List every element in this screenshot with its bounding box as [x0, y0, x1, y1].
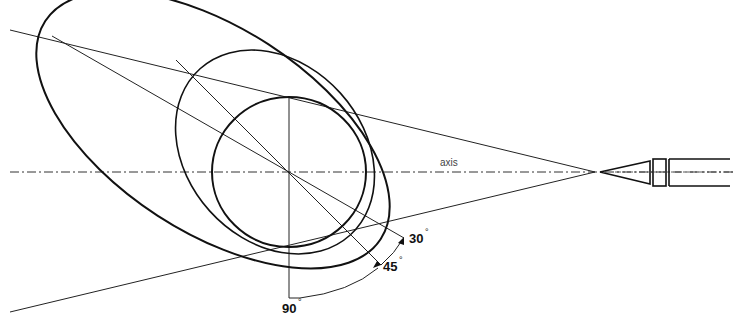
oblique-beam-section-diagram: axis 30 ° 45 ° 90 °: [0, 0, 743, 324]
cone-lower-line: [10, 172, 595, 312]
angle-unit-45: °: [399, 255, 403, 265]
angle-label-90: 90: [282, 301, 296, 316]
angle-arc: [300, 268, 378, 298]
section-30-ellipse: [0, 0, 436, 324]
angle-unit-90: °: [298, 297, 302, 307]
angle-label-45: 45: [383, 259, 397, 274]
axis-label: axis: [440, 157, 458, 168]
arrowhead-45-icon: [373, 261, 381, 268]
angle-label-30: 30: [409, 231, 423, 246]
line-30-degree: [52, 36, 404, 238]
angle-unit-30: °: [425, 227, 429, 237]
cone-upper-line: [10, 30, 595, 172]
arrowhead-30-icon: [398, 237, 404, 245]
